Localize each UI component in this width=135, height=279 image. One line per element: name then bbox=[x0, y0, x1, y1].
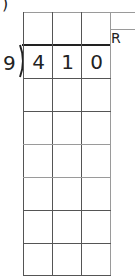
problem-label-paren: ) bbox=[2, 0, 8, 12]
grid-row-line bbox=[23, 210, 111, 211]
divisor: 9 bbox=[3, 53, 16, 73]
grid-row-line bbox=[23, 111, 111, 112]
quotient-cell-2[interactable] bbox=[53, 13, 81, 45]
grid-bottom-line bbox=[23, 275, 111, 276]
dividend-digit-1: 4 bbox=[24, 52, 53, 72]
grid-row-line bbox=[23, 177, 111, 178]
quotient-cell-1[interactable] bbox=[24, 13, 52, 45]
grid-row-line bbox=[23, 144, 111, 145]
division-bar bbox=[22, 44, 111, 46]
dividend-digit-3: 0 bbox=[82, 52, 111, 72]
remainder-label: R bbox=[111, 31, 121, 45]
grid-row-line bbox=[23, 243, 111, 244]
dividend-digit-2: 1 bbox=[53, 52, 82, 72]
grid-row-line bbox=[23, 78, 111, 79]
quotient-cell-3[interactable] bbox=[82, 13, 110, 45]
